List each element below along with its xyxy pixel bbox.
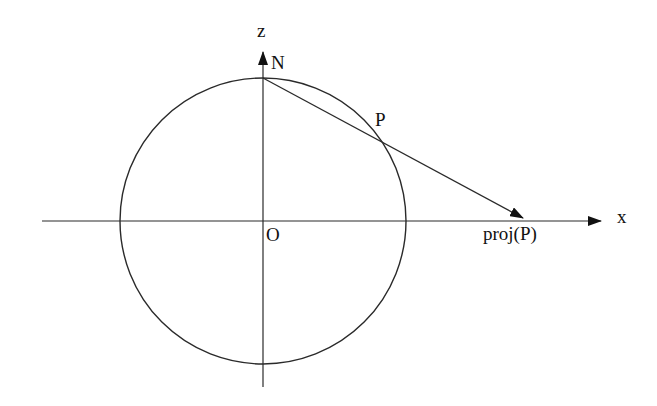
projection-ray	[263, 78, 523, 218]
stereographic-diagram: z N P O proj(P) x	[0, 0, 657, 406]
z-axis-label: z	[257, 20, 265, 41]
north-pole-label: N	[271, 52, 285, 73]
origin-label: O	[266, 224, 280, 245]
point-p-label: P	[375, 109, 386, 130]
x-axis-label: x	[617, 206, 627, 227]
projection-label: proj(P)	[483, 223, 537, 245]
